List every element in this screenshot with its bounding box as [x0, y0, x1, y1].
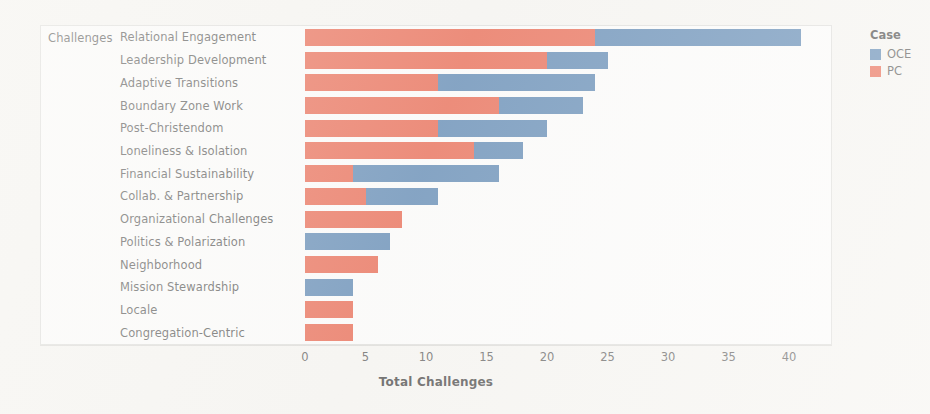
x-axis-title: Total Challenges	[40, 375, 832, 389]
y-axis-group-label: Challenges	[48, 31, 113, 45]
bar-row[interactable]	[293, 230, 831, 253]
legend-label: PC	[887, 64, 902, 78]
bar-segment-pc[interactable]	[305, 211, 402, 228]
bar-row[interactable]	[293, 71, 831, 94]
bars-container	[293, 26, 831, 344]
category-label: Mission Stewardship	[120, 276, 288, 299]
legend: Case OCEPC	[870, 28, 930, 81]
bar-segment-pc[interactable]	[305, 188, 366, 205]
bar-segment-oce[interactable]	[438, 74, 595, 91]
category-label: Politics & Polarization	[120, 230, 288, 253]
bar-segment-pc[interactable]	[305, 120, 438, 137]
bar-row[interactable]	[293, 253, 831, 276]
bar-segment-pc[interactable]	[305, 301, 353, 318]
bar-segment-pc[interactable]	[305, 165, 353, 182]
bar-segment-oce[interactable]	[353, 165, 498, 182]
category-label: Congregation-Centric	[120, 321, 288, 344]
bar-row[interactable]	[293, 321, 831, 344]
stacked-bar-chart: Challenges Relational EngagementLeadersh…	[0, 0, 930, 414]
category-label: Loneliness & Isolation	[120, 140, 288, 163]
x-tick-label: 0	[301, 350, 308, 364]
x-tick-label: 25	[600, 350, 615, 364]
bar-segment-pc[interactable]	[305, 142, 474, 159]
bar-segment-pc[interactable]	[305, 256, 378, 273]
category-label: Organizational Challenges	[120, 208, 288, 231]
category-label: Neighborhood	[120, 253, 288, 276]
x-tick-label: 30	[661, 350, 676, 364]
bar-row[interactable]	[293, 140, 831, 163]
x-tick-label: 20	[540, 350, 555, 364]
bar-row[interactable]	[293, 299, 831, 322]
bar-segment-oce[interactable]	[366, 188, 439, 205]
bar-segment-oce[interactable]	[305, 279, 353, 296]
bar-row[interactable]	[293, 208, 831, 231]
bar-row[interactable]	[293, 117, 831, 140]
bar-row[interactable]	[293, 276, 831, 299]
legend-title: Case	[870, 28, 930, 42]
legend-label: OCE	[887, 47, 911, 61]
x-tick-label: 5	[362, 350, 369, 364]
category-label: Leadership Development	[120, 49, 288, 72]
bar-row[interactable]	[293, 94, 831, 117]
bar-row[interactable]	[293, 49, 831, 72]
bar-segment-oce[interactable]	[438, 120, 547, 137]
x-tick-label: 15	[479, 350, 494, 364]
category-label-column: Relational EngagementLeadership Developm…	[120, 26, 288, 344]
legend-item-oce[interactable]: OCE	[870, 47, 930, 61]
x-axis-line	[40, 345, 832, 346]
bar-segment-pc[interactable]	[305, 74, 438, 91]
bar-segment-pc[interactable]	[305, 97, 499, 114]
bar-segment-oce[interactable]	[474, 142, 522, 159]
x-tick-label: 35	[721, 350, 736, 364]
bar-row[interactable]	[293, 26, 831, 49]
bar-segment-pc[interactable]	[305, 52, 547, 69]
bar-segment-pc[interactable]	[305, 29, 595, 46]
bar-segment-oce[interactable]	[595, 29, 801, 46]
bar-segment-pc[interactable]	[305, 324, 353, 341]
legend-item-pc[interactable]: PC	[870, 64, 930, 78]
x-tick-label: 40	[782, 350, 797, 364]
legend-swatch-oce	[870, 49, 881, 60]
bar-row[interactable]	[293, 162, 831, 185]
category-label: Post-Christendom	[120, 117, 288, 140]
bar-segment-oce[interactable]	[547, 52, 608, 69]
legend-swatch-pc	[870, 66, 881, 77]
x-axis-tick-labels: 0510152025303540	[305, 350, 805, 366]
category-label: Relational Engagement	[120, 26, 288, 49]
bar-segment-oce[interactable]	[305, 233, 390, 250]
category-label: Collab. & Partnership	[120, 185, 288, 208]
category-label: Adaptive Transitions	[120, 71, 288, 94]
bar-row[interactable]	[293, 185, 831, 208]
bar-segment-oce[interactable]	[499, 97, 584, 114]
category-label: Boundary Zone Work	[120, 94, 288, 117]
category-label: Financial Sustainability	[120, 162, 288, 185]
x-tick-label: 10	[419, 350, 434, 364]
category-label: Locale	[120, 299, 288, 322]
